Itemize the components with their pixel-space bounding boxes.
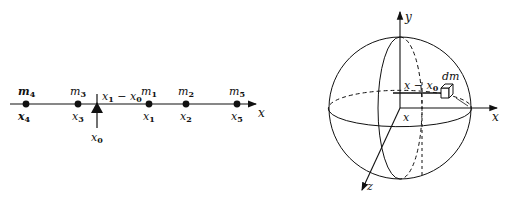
meridian-front xyxy=(378,37,400,179)
mass-element-cube-icon xyxy=(441,84,453,98)
svg-text:x3: x3 xyxy=(72,110,84,124)
x-axis-label: x xyxy=(258,106,265,120)
svg-text:x2: x2 xyxy=(180,110,192,124)
distance-label: x1 − x0 xyxy=(102,90,142,104)
sphere-figure xyxy=(328,12,497,190)
svg-text:m5: m5 xyxy=(229,85,245,99)
z-axis-label: z xyxy=(366,180,373,193)
equator-front xyxy=(329,106,472,127)
dm-label: dm xyxy=(442,70,459,83)
svg-text:m2: m2 xyxy=(178,85,194,99)
svg-text:m3: m3 xyxy=(70,85,86,99)
svg-text:m1: m1 xyxy=(141,85,157,99)
distance-label-right: x − x0 xyxy=(404,79,439,93)
z-axis xyxy=(362,108,400,190)
svg-text:x1: x1 xyxy=(143,110,155,124)
sphere-labels: y x z x x − x0 dm xyxy=(366,10,499,193)
y-axis-label: y xyxy=(404,10,412,24)
diagram-canvas: x x0 x1 − x0 m4 x4 m3 x3 m1 x1 m2 x2 xyxy=(0,0,514,198)
origin-label: x xyxy=(403,111,410,124)
svg-text:x5: x5 xyxy=(231,110,243,124)
svg-text:m4: m4 xyxy=(18,85,36,99)
svg-text:x4: x4 xyxy=(17,110,31,124)
mass-axis-figure: x x0 x1 − x0 m4 x4 m3 x3 m1 x1 m2 x2 xyxy=(10,85,265,145)
pivot-label: x0 xyxy=(91,131,103,145)
x-axis-label-right: x xyxy=(492,110,499,124)
